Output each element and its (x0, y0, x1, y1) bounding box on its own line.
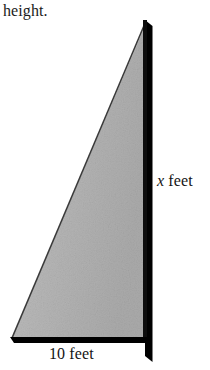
base-bar (10, 337, 152, 343)
vertical-post-group (143, 20, 153, 362)
vertical-side-unit: feet (168, 172, 192, 189)
vertical-side-variable: x (157, 172, 164, 189)
base-bar-group (10, 337, 152, 343)
triangle-face-group (12, 21, 147, 338)
vertical-post-inner-edge (143, 20, 147, 340)
vertical-side-label: x feet (157, 171, 193, 190)
base-side-label: 10 feet (49, 344, 94, 363)
geometry-figure-canvas: height. (0, 0, 210, 370)
